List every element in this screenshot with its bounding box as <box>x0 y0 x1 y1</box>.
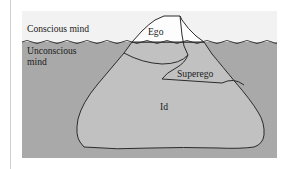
label-conscious-mind: Conscious mind <box>27 23 89 34</box>
label-unconscious-mind-line1: Unconscious <box>27 45 77 56</box>
iceberg-diagram: Conscious mind Unconscious mind Ego Supe… <box>22 11 277 158</box>
label-unconscious-mind-line2: mind <box>27 56 47 67</box>
figure-page: Conscious mind Unconscious mind Ego Supe… <box>0 0 287 169</box>
page-margin-rule <box>10 0 11 169</box>
label-id: Id <box>160 101 168 112</box>
label-ego: Ego <box>148 26 164 37</box>
label-superego: Superego <box>177 68 213 79</box>
